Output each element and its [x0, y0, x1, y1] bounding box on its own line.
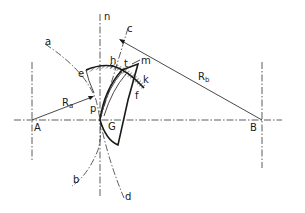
label-f: f [135, 90, 139, 101]
label-a-point: A [34, 122, 41, 133]
flank-inner-1 [102, 72, 122, 112]
radius-rb-arrowhead [119, 39, 125, 44]
arc-hk-hatch [110, 62, 146, 90]
label-k: k [143, 74, 149, 85]
radius-rb-line [120, 40, 262, 120]
label-m: m [141, 55, 151, 66]
label-g: G [108, 121, 116, 132]
flank-e [86, 70, 94, 93]
label-b-point: B [250, 122, 257, 133]
label-h: h [110, 55, 116, 66]
label-e: e [78, 68, 84, 79]
arc-e-hatch [86, 66, 113, 74]
label-n: n [104, 11, 110, 22]
label-p: p [90, 103, 96, 114]
label-d: d [125, 191, 131, 202]
label-b-curve: b [73, 174, 79, 185]
label-c: c [127, 23, 133, 34]
label-t: t [124, 58, 128, 69]
label-a: a [45, 36, 51, 47]
gear-geometry-diagram: n c a e h t m k f Ra Rb A B p G b d [0, 0, 305, 213]
curve-a-b [45, 44, 101, 186]
label-rb: Rb [198, 71, 210, 84]
